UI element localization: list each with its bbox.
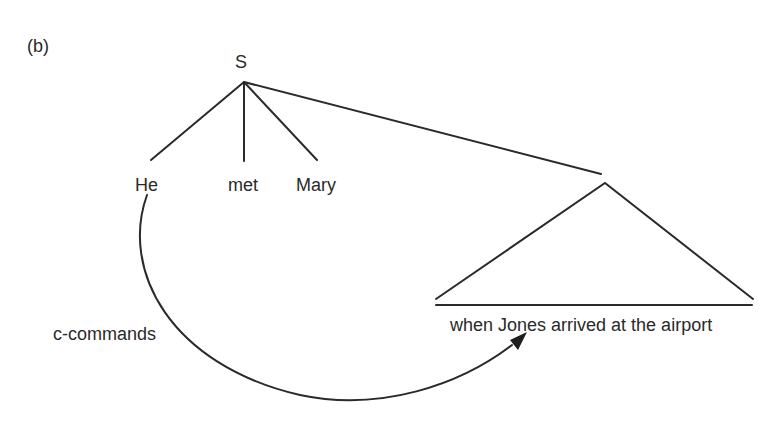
node-he: He: [135, 176, 158, 194]
node-met: met: [228, 176, 258, 194]
arrow-label: c-commands: [53, 325, 156, 343]
tree-diagram: [0, 0, 772, 423]
branch-he: [151, 82, 244, 160]
node-mary: Mary: [296, 176, 336, 194]
branch-subclause: [244, 82, 601, 174]
panel-label: (b): [27, 37, 49, 55]
branch-mary: [244, 82, 317, 160]
node-s: S: [235, 53, 247, 71]
triangle-subtree: [436, 183, 753, 299]
c-command-arrow-curve: [140, 195, 512, 400]
subtree-text: when Jones arrived at the airport: [450, 316, 712, 334]
